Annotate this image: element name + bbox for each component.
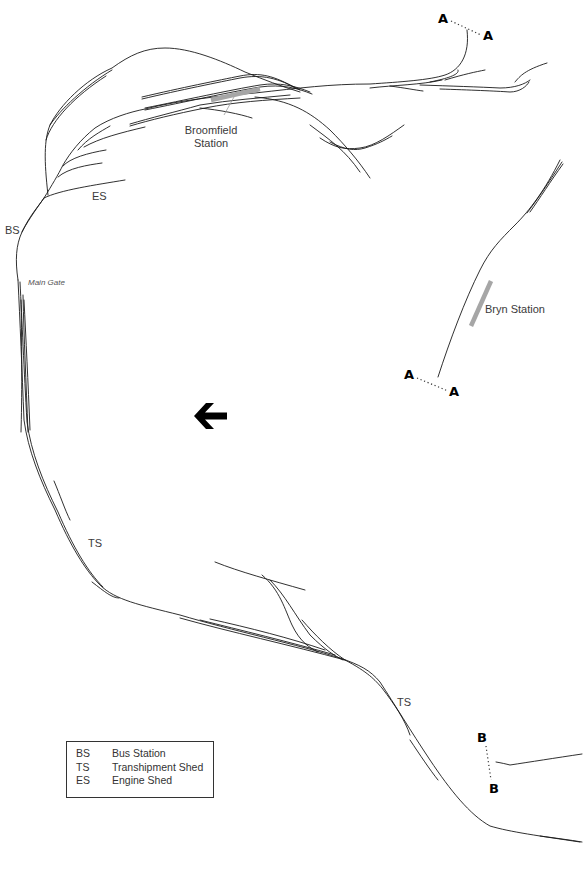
broomfield-station-label: Broomfield Station bbox=[171, 124, 251, 150]
connector-a-mid-left: A bbox=[404, 368, 414, 382]
legend-meaning: Bus Station bbox=[112, 747, 166, 761]
ts-label-west: TS bbox=[88, 537, 102, 550]
bs-label: BS bbox=[5, 224, 20, 237]
main-gate-label: Main Gate bbox=[28, 276, 65, 289]
connector-a-mid-right: A bbox=[449, 385, 459, 399]
legend-meaning: Transhipment Shed bbox=[112, 761, 203, 775]
arrow-left-icon bbox=[194, 403, 228, 429]
legend-abbr: ES bbox=[76, 774, 112, 788]
connector-a-top-left: A bbox=[438, 12, 448, 26]
legend-item-bs: BS Bus Station bbox=[76, 747, 213, 761]
bryn-station-label: Bryn Station bbox=[485, 303, 545, 316]
broomfield-label-line2: Station bbox=[171, 137, 251, 150]
legend-item-ts: TS Transhipment Shed bbox=[76, 761, 213, 775]
a-connector-top bbox=[451, 21, 481, 35]
legend-abbr: TS bbox=[76, 761, 112, 775]
a-connector-mid bbox=[417, 378, 448, 391]
ts-label-east: TS bbox=[397, 696, 411, 709]
connector-a-top-right: A bbox=[483, 29, 493, 43]
legend-item-es: ES Engine Shed bbox=[76, 774, 213, 788]
broomfield-yard bbox=[130, 63, 547, 178]
broomfield-label-line1: Broomfield bbox=[171, 124, 251, 137]
legend: BS Bus Station TS Transhipment Shed ES E… bbox=[66, 741, 214, 798]
main-line-west bbox=[16, 30, 467, 280]
legend-abbr: BS bbox=[76, 747, 112, 761]
es-label: ES bbox=[92, 190, 107, 203]
bryn-branch bbox=[438, 160, 563, 377]
connector-b-bottom: B bbox=[489, 782, 499, 796]
b-connector bbox=[486, 746, 491, 780]
legend-meaning: Engine Shed bbox=[112, 774, 172, 788]
b-branch bbox=[496, 754, 582, 765]
connector-b-top: B bbox=[477, 731, 487, 745]
